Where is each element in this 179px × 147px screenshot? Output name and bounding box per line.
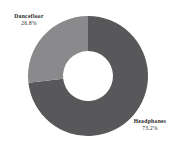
slice-label-dancefloor: Dancefloor 26.8% xyxy=(7,13,51,26)
slice-label-headphones-value: 73.2% xyxy=(126,125,174,131)
slice-label-dancefloor-name: Dancefloor xyxy=(7,13,51,20)
slice-label-headphones-name: Headphones xyxy=(126,118,174,125)
donut-chart: Dancefloor 26.8% Headphones 73.2% xyxy=(0,0,179,147)
slice-label-dancefloor-value: 26.8% xyxy=(7,20,51,26)
slice-label-headphones: Headphones 73.2% xyxy=(126,118,174,131)
donut-slice-dancefloor xyxy=(28,16,88,83)
